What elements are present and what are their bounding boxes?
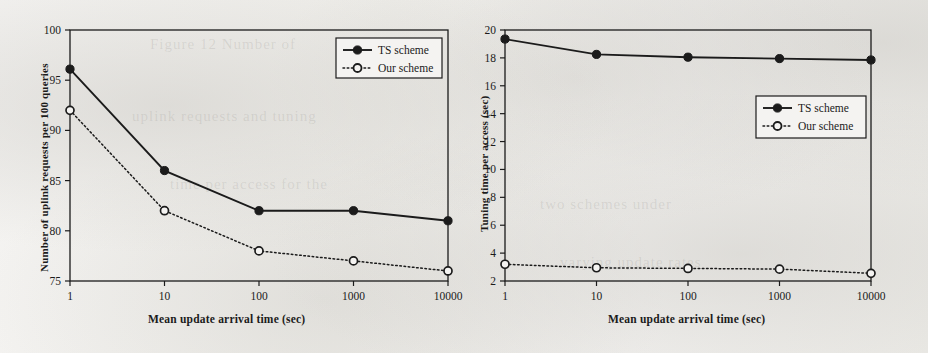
data-point-marker — [592, 50, 600, 58]
y-axis-tick-label: 80 — [50, 225, 62, 237]
data-point-marker — [255, 207, 263, 215]
data-point-marker — [776, 265, 784, 273]
data-point-marker — [867, 269, 875, 277]
x-axis-tick-label: 1000 — [342, 290, 365, 302]
x-axis-tick-label: 1000 — [768, 290, 791, 302]
x-axis-tick-label: 100 — [250, 290, 268, 302]
legend-label: TS scheme — [798, 102, 849, 114]
legend-marker-filled-circle-icon — [773, 104, 781, 112]
data-point-marker — [66, 106, 74, 114]
data-point-marker — [501, 35, 509, 43]
x-axis-tick-label: 1 — [67, 290, 73, 302]
legend-label: Our scheme — [798, 120, 853, 132]
y-axis-tick-label: 2 — [490, 275, 496, 287]
data-point-marker — [501, 260, 509, 268]
data-point-marker — [684, 264, 692, 272]
x-axis-tick-label: 1 — [502, 290, 508, 302]
data-point-marker — [684, 53, 692, 61]
y-axis-tick-label: 4 — [490, 247, 496, 259]
legend-label: Our scheme — [378, 62, 433, 74]
data-point-marker — [160, 166, 168, 174]
y-axis-title-right: Tuning time per access (sec) — [478, 96, 490, 232]
chart-left-canvas: 7580859095100110100100010000TS schemeOur… — [0, 0, 464, 353]
chart-left: 7580859095100110100100010000TS schemeOur… — [0, 0, 464, 353]
data-point-marker — [66, 65, 74, 73]
x-axis-tick-label: 10 — [159, 290, 171, 302]
legend-marker-open-circle-icon — [354, 64, 362, 72]
y-axis-tick-label: 90 — [50, 124, 62, 136]
y-axis-tick-label: 100 — [44, 24, 62, 36]
data-point-marker — [161, 207, 169, 215]
x-axis-title-right: Mean update arrival time (sec) — [608, 313, 765, 325]
x-axis-tick-label: 10000 — [434, 290, 463, 302]
y-axis-tick-label: 75 — [50, 275, 62, 287]
series-line-1 — [70, 69, 448, 221]
legend-marker-open-circle-icon — [774, 122, 782, 130]
data-point-marker — [349, 207, 357, 215]
x-axis-tick-label: 10000 — [857, 290, 886, 302]
data-point-marker — [444, 267, 452, 275]
y-axis-tick-label: 95 — [50, 74, 62, 86]
y-axis-tick-label: 6 — [490, 219, 496, 231]
y-axis-tick-label: 8 — [490, 191, 496, 203]
chart-right-canvas: 2468101214161820110100100010000TS scheme… — [464, 0, 928, 353]
data-point-marker — [867, 56, 875, 64]
legend-label: TS scheme — [378, 44, 429, 56]
legend: TS schemeOur scheme — [756, 96, 866, 138]
data-point-marker — [593, 264, 601, 272]
plot-frame — [505, 30, 871, 281]
x-axis-title-left: Mean update arrival time (sec) — [148, 313, 305, 325]
y-axis-tick-label: 20 — [485, 24, 497, 36]
scanned-page: Figure 12 Number of uplink requests and … — [0, 0, 928, 353]
legend: TS schemeOur scheme — [336, 38, 442, 78]
y-axis-tick-label: 85 — [50, 175, 62, 187]
y-axis-tick-label: 16 — [485, 80, 497, 92]
chart-right: 2468101214161820110100100010000TS scheme… — [464, 0, 928, 353]
y-axis-title-left: Number of uplink requests per 100 querie… — [38, 63, 50, 272]
x-axis-tick-label: 100 — [679, 290, 697, 302]
legend-marker-filled-circle-icon — [353, 46, 361, 54]
data-point-marker — [350, 257, 358, 265]
data-point-marker — [444, 217, 452, 225]
y-axis-tick-label: 18 — [485, 52, 497, 64]
data-point-marker — [775, 54, 783, 62]
x-axis-tick-label: 10 — [591, 290, 603, 302]
data-point-marker — [255, 247, 263, 255]
